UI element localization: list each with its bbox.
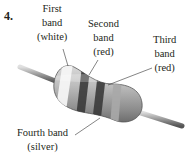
- second-band-leader: [89, 60, 98, 75]
- right-lead: [138, 112, 182, 126]
- resistor-illustration: [0, 0, 186, 158]
- first-band-leader: [63, 49, 68, 66]
- left-lead: [20, 67, 58, 82]
- fourth-band-leader: [75, 118, 100, 135]
- resistor-body: [50, 60, 142, 128]
- third-band-leader: [108, 68, 152, 85]
